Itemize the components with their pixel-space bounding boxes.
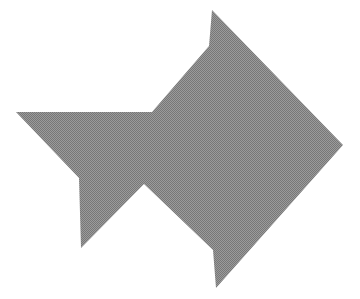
- figure-canvas: [0, 0, 360, 299]
- shape-svg: [0, 0, 360, 299]
